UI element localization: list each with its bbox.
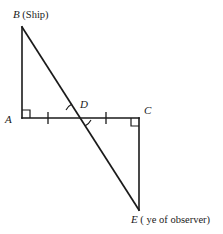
vertex-label-d: D: [80, 99, 88, 110]
right-angle-marker-c: [131, 118, 139, 126]
vertex-note-b: (Ship): [20, 9, 49, 20]
vertex-label-b: B (Ship): [13, 9, 49, 21]
vertex-label-c: C: [144, 105, 151, 116]
vertex-note-e: ( ye of observer): [138, 214, 210, 225]
angle-arc-d-lower: [85, 120, 91, 126]
geometry-figure: [0, 0, 223, 234]
vertex-label-e: E ( ye of observer): [131, 214, 210, 226]
right-angle-marker-a: [22, 110, 30, 118]
vertex-label-a: A: [5, 114, 12, 125]
angle-arc-d-upper: [66, 104, 72, 110]
